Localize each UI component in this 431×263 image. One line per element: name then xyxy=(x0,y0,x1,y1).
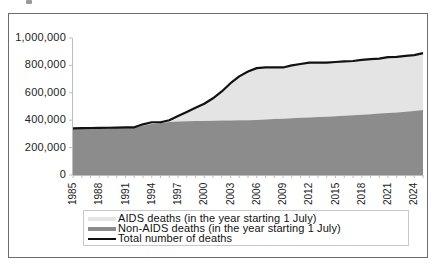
y-tick-label: 400,000 xyxy=(25,113,66,125)
legend-swatch-dark-gray xyxy=(88,227,116,231)
legend-swatch-black-line xyxy=(88,238,116,240)
y-tick-label: 0 xyxy=(60,168,66,180)
y-tick-label: 800,000 xyxy=(25,58,66,70)
x-tick-label: 2006 xyxy=(251,183,262,205)
x-tick-label: 2000 xyxy=(198,183,209,205)
y-tick-label: 200,000 xyxy=(25,141,66,153)
x-tick-label: 2012 xyxy=(303,183,314,205)
x-tick-label: 2003 xyxy=(225,183,236,205)
legend-label: Total number of deaths xyxy=(118,233,232,244)
x-tick-label: 2018 xyxy=(356,183,367,205)
x-tick-label: 2015 xyxy=(330,183,341,205)
x-tick-label: 1988 xyxy=(93,183,104,205)
legend-swatch-light-gray xyxy=(88,217,116,221)
chart-legend: AIDS deaths (in the year starting 1 July… xyxy=(83,210,409,246)
x-tick-label: 1985 xyxy=(67,183,78,205)
x-tick-label: 2009 xyxy=(277,183,288,205)
x-tick-label: 2021 xyxy=(382,183,393,205)
x-tick-label: 2024 xyxy=(408,183,419,205)
x-tick-label: 1994 xyxy=(146,183,157,205)
legend-item-total-deaths: Total number of deaths xyxy=(84,233,232,244)
y-tick-label: 600,000 xyxy=(25,86,66,98)
x-tick-label: 1991 xyxy=(120,183,131,205)
x-tick-label: 1997 xyxy=(172,183,183,205)
y-tick-label: 1,000,000 xyxy=(15,31,66,43)
